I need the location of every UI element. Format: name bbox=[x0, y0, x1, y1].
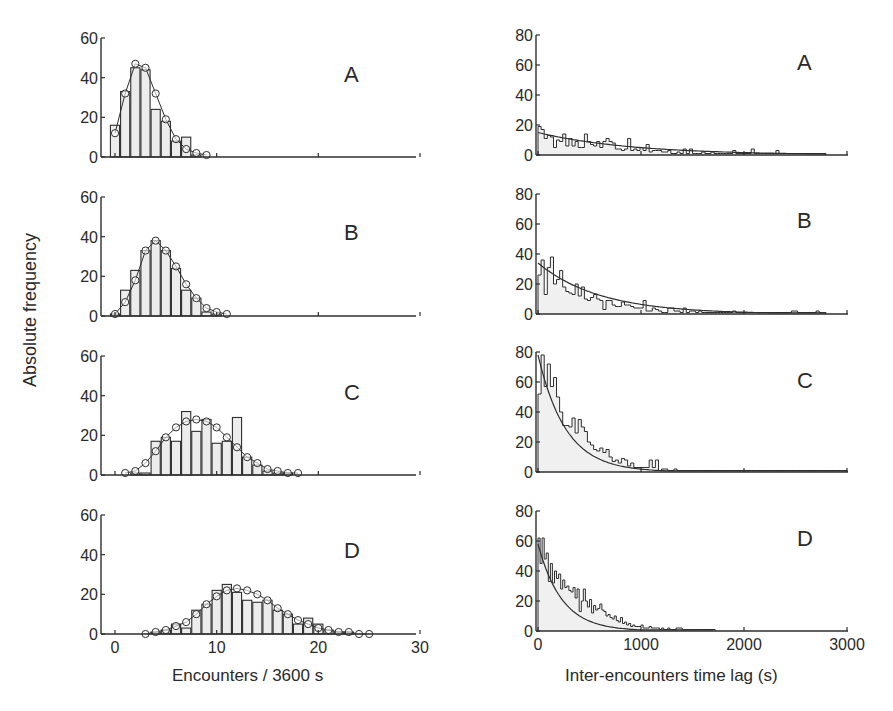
model-point bbox=[142, 64, 149, 71]
model-point bbox=[193, 149, 200, 156]
y-tick-label: 0 bbox=[89, 467, 98, 484]
model-point bbox=[172, 263, 179, 270]
panel-label: B bbox=[344, 220, 359, 245]
model-point bbox=[193, 295, 200, 302]
y-tick-label: 20 bbox=[80, 427, 98, 444]
model-point bbox=[162, 247, 169, 254]
histogram-bar bbox=[171, 141, 180, 157]
panel-right-C: 020406080C bbox=[515, 344, 848, 481]
y-tick-label: 60 bbox=[80, 348, 98, 365]
data-right-A bbox=[538, 127, 826, 156]
model-point bbox=[162, 434, 169, 441]
model-point bbox=[193, 611, 200, 618]
data-left-D bbox=[142, 584, 373, 637]
histogram-bar bbox=[273, 610, 282, 634]
model-point bbox=[162, 116, 169, 123]
x-tick-label: 0 bbox=[534, 636, 543, 653]
y-tick-label: 0 bbox=[524, 623, 533, 640]
model-point bbox=[223, 434, 230, 441]
model-point bbox=[122, 90, 129, 97]
y-tick-label: 60 bbox=[515, 533, 533, 550]
model-point bbox=[244, 454, 251, 461]
model-point bbox=[152, 448, 159, 455]
histogram-bar bbox=[263, 600, 272, 634]
histogram-bar bbox=[182, 628, 191, 634]
x-tick-label: 1000 bbox=[623, 636, 659, 653]
histogram-bar bbox=[192, 431, 201, 475]
model-point bbox=[203, 304, 210, 311]
model-point bbox=[132, 467, 139, 474]
y-tick-label: 80 bbox=[515, 27, 533, 44]
x-tick-label: 2000 bbox=[726, 636, 762, 653]
y-tick-label: 0 bbox=[89, 149, 98, 166]
y-tick-label: 80 bbox=[515, 344, 533, 361]
histogram-bar bbox=[151, 109, 160, 157]
model-point bbox=[132, 60, 139, 67]
model-point bbox=[213, 424, 220, 431]
y-tick-label: 20 bbox=[80, 109, 98, 126]
y-tick-label: 40 bbox=[80, 70, 98, 87]
model-point bbox=[203, 601, 210, 608]
right-x-axis-label: Inter-encounters time lag (s) bbox=[565, 666, 778, 686]
panel-left-B: 0204060B bbox=[80, 189, 420, 325]
y-tick-label: 20 bbox=[515, 434, 533, 451]
y-tick-label: 40 bbox=[80, 388, 98, 405]
model-point bbox=[172, 136, 179, 143]
histogram-bar bbox=[171, 268, 180, 316]
histogram-bar bbox=[182, 290, 191, 316]
histogram-bar bbox=[131, 68, 140, 157]
histogram-step bbox=[538, 257, 825, 314]
model-point bbox=[213, 593, 220, 600]
y-axis-label: Absolute frequency bbox=[10, 300, 30, 320]
y-tick-label: 60 bbox=[515, 57, 533, 74]
model-point bbox=[142, 460, 149, 467]
panel-right-A: 020406080A bbox=[515, 27, 848, 164]
model-point bbox=[172, 424, 179, 431]
model-point bbox=[254, 460, 261, 467]
model-point bbox=[254, 591, 261, 598]
histogram-bar bbox=[253, 602, 262, 634]
model-point bbox=[264, 465, 271, 472]
y-axis-label-text: Absolute frequency bbox=[20, 230, 41, 390]
model-point bbox=[203, 418, 210, 425]
data-left-C bbox=[122, 412, 302, 477]
y-tick-label: 40 bbox=[80, 547, 98, 564]
histogram-bar bbox=[212, 443, 221, 475]
y-tick-label: 60 bbox=[80, 30, 98, 47]
y-tick-label: 40 bbox=[515, 87, 533, 104]
y-tick-label: 40 bbox=[80, 229, 98, 246]
model-point bbox=[325, 626, 332, 633]
x-tick-label: 3000 bbox=[829, 636, 865, 653]
panel-label: A bbox=[344, 62, 359, 87]
histogram-step bbox=[538, 538, 715, 631]
left-x-axis-label: Encounters / 3600 s bbox=[172, 666, 323, 686]
y-tick-label: 20 bbox=[515, 276, 533, 293]
model-point bbox=[233, 585, 240, 592]
histogram-bar bbox=[293, 624, 302, 634]
y-tick-label: 80 bbox=[515, 186, 533, 203]
model-point bbox=[244, 587, 251, 594]
histogram-bar bbox=[161, 251, 170, 316]
panel-right-B: 020406080B bbox=[515, 186, 848, 323]
data-left-B bbox=[110, 237, 230, 318]
model-point bbox=[274, 467, 281, 474]
panel-right-D: 0204060800100020003000D bbox=[515, 503, 865, 653]
data-right-B bbox=[538, 257, 826, 314]
histogram-bar bbox=[243, 600, 252, 634]
model-point bbox=[122, 299, 129, 306]
y-tick-label: 60 bbox=[80, 189, 98, 206]
figure: 0204060A0204060B0204060C02040600102030D0… bbox=[0, 0, 893, 711]
histogram-bar bbox=[222, 441, 231, 475]
panel-left-A: 0204060A bbox=[80, 30, 420, 166]
y-tick-label: 40 bbox=[515, 404, 533, 421]
histogram-bar bbox=[202, 604, 211, 634]
histogram-bar bbox=[121, 92, 130, 157]
panel-label: A bbox=[797, 50, 812, 75]
model-point bbox=[172, 622, 179, 629]
y-tick-label: 60 bbox=[515, 216, 533, 233]
histogram-bar bbox=[202, 419, 211, 475]
model-point bbox=[183, 281, 190, 288]
model-point bbox=[132, 277, 139, 284]
y-tick-label: 0 bbox=[524, 147, 533, 164]
y-tick-label: 0 bbox=[89, 626, 98, 643]
